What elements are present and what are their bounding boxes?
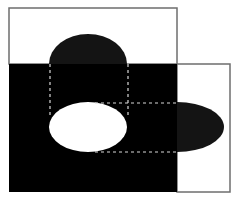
diagram-canvas	[0, 0, 235, 200]
geometry-figure	[0, 0, 235, 200]
center-ellipse	[49, 102, 127, 152]
